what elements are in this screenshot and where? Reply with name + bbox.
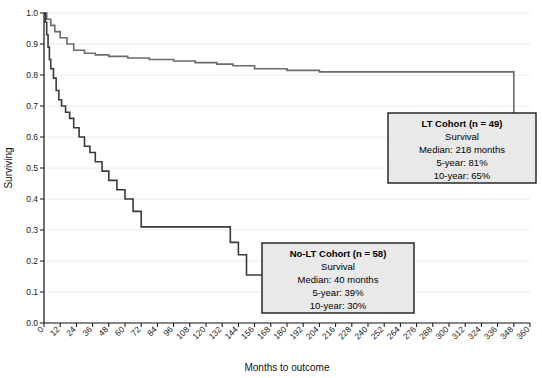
x-tick-label: 180 xyxy=(271,324,288,341)
no-lt-cohort-box: No-LT Cohort (n = 58)SurvivalMedian: 40 … xyxy=(262,243,414,313)
x-tick-label: 312 xyxy=(450,324,467,341)
annotation-title: LT Cohort (n = 49) xyxy=(422,118,503,129)
annotation-line: Survival xyxy=(445,131,479,142)
y-tick-label: 0.8 xyxy=(26,70,38,80)
x-tick-label: 336 xyxy=(482,324,499,341)
x-tick-label: 348 xyxy=(498,324,515,341)
x-tick-label: 216 xyxy=(320,324,337,341)
y-tick-label: 0.7 xyxy=(26,101,38,111)
lt-cohort-box: LT Cohort (n = 49)SurvivalMedian: 218 mo… xyxy=(388,113,536,183)
y-tick-label: 0.1 xyxy=(26,287,38,297)
x-axis-title: Months to outcome xyxy=(244,362,329,373)
annotation-line: Median: 218 months xyxy=(419,144,505,155)
y-tick-label: 1.0 xyxy=(26,8,38,18)
x-tick-label: 300 xyxy=(433,324,450,341)
annotation-title: No-LT Cohort (n = 58) xyxy=(290,248,387,259)
x-tick-label: 228 xyxy=(336,324,353,341)
x-tick-label: 288 xyxy=(417,324,434,341)
y-tick-label: 0.6 xyxy=(26,132,38,142)
x-tick-label: 252 xyxy=(369,324,386,341)
y-tick-label: 0.9 xyxy=(26,39,38,49)
x-axis-tick-labels: 0122436486072849610812013214415616818019… xyxy=(35,323,532,341)
x-tick-label: 276 xyxy=(401,324,418,341)
x-tick-label: 360 xyxy=(514,324,531,341)
x-tick-label: 120 xyxy=(190,324,207,341)
annotation-line: Median: 40 months xyxy=(298,274,379,285)
x-tick-label: 156 xyxy=(239,324,256,341)
x-tick-label: 144 xyxy=(223,324,240,341)
y-axis-title: Surviving xyxy=(3,147,14,188)
x-tick-label: 108 xyxy=(174,324,191,341)
annotation-line: 10-year: 65% xyxy=(434,170,491,181)
annotation-line: Survival xyxy=(321,261,355,272)
x-tick-label: 264 xyxy=(385,324,402,341)
y-tick-label: 0.3 xyxy=(26,225,38,235)
x-tick-label: 168 xyxy=(255,324,272,341)
x-tick-label: 240 xyxy=(352,324,369,341)
annotation-line: 5-year: 39% xyxy=(312,287,364,298)
x-tick-label: 132 xyxy=(207,324,224,341)
kaplan-meier-plot: 0122436486072849610812013214415616818019… xyxy=(0,0,542,378)
y-tick-label: 0.2 xyxy=(26,256,38,266)
annotation-boxes: LT Cohort (n = 49)SurvivalMedian: 218 mo… xyxy=(262,113,536,313)
survival-chart: 0122436486072849610812013214415616818019… xyxy=(0,0,542,378)
annotation-line: 5-year: 81% xyxy=(436,157,488,168)
x-tick-label: 204 xyxy=(304,324,321,341)
x-tick-label: 192 xyxy=(288,324,305,341)
annotation-line: 10-year: 30% xyxy=(310,300,367,311)
y-tick-label: 0.4 xyxy=(26,194,38,204)
y-tick-label: 0.5 xyxy=(26,163,38,173)
y-tick-label: 0.0 xyxy=(26,318,38,328)
y-axis-tick-labels: 0.00.10.20.30.40.50.60.70.80.91.0 xyxy=(26,8,44,328)
x-tick-label: 324 xyxy=(466,324,483,341)
